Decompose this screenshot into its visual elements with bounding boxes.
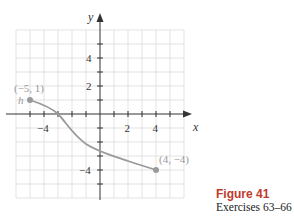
figure-title: Figure 41 [216,188,292,201]
y-tick-label: −4 [79,164,91,176]
start-point [27,97,33,103]
y-tick-label: 2 [86,80,92,92]
x-tick-label: −4 [37,122,49,134]
y-tick-label: 4 [86,52,92,64]
end-point [153,167,159,173]
end-point-label: (4, −4) [159,153,189,166]
curve-h [30,100,156,170]
x-tick-label: 4 [153,122,159,134]
y-axis-label: y [87,10,94,24]
x-axis-arrow-icon [183,111,192,118]
figure-caption: Figure 41 Exercises 63–66 [216,188,292,214]
y-axis-arrow-icon [97,13,104,22]
figure-subtitle: Exercises 63–66 [216,201,292,214]
axes [6,22,184,200]
function-label: h [18,94,24,106]
x-tick-label: 2 [125,122,131,134]
x-axis-label: x [192,120,199,134]
